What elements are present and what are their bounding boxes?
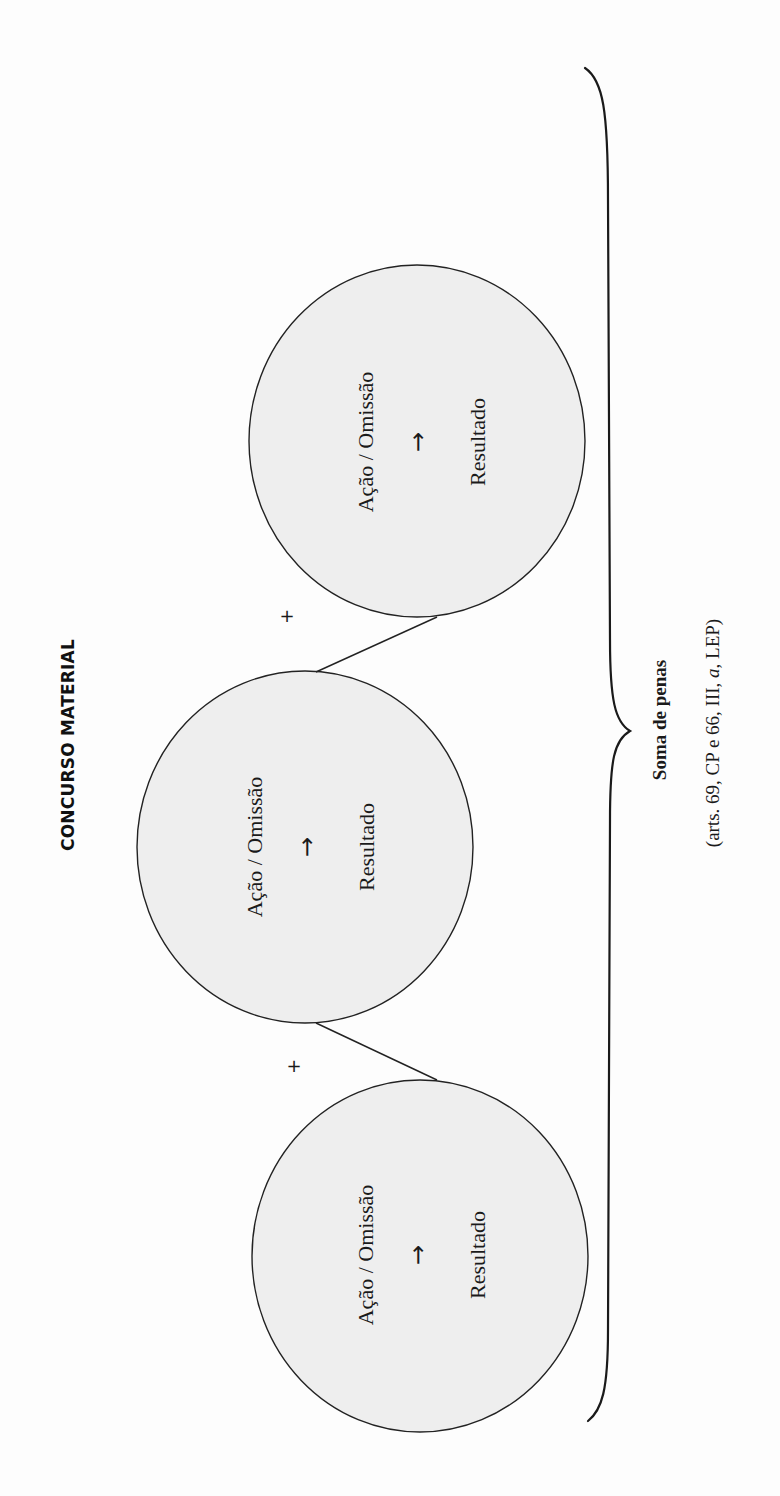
- citation-prefix: (arts. 69, CP e 66, III,: [702, 678, 723, 847]
- curly-brace: [585, 68, 630, 1421]
- citation-italic: a: [702, 668, 723, 678]
- arrow-right-icon: →: [404, 1245, 432, 1265]
- circle-top-action: Ação / Omissão: [353, 372, 379, 513]
- citation-suffix: , LEP): [702, 619, 723, 669]
- circle-middle-result: Resultado: [354, 803, 380, 891]
- diagram-title: CONCURSO MATERIAL: [58, 639, 78, 851]
- connector-line-lower: [316, 1023, 437, 1080]
- connector-line-upper: [316, 617, 437, 672]
- plus-sign-lower: +: [286, 1055, 301, 1076]
- circle-middle-action: Ação / Omissão: [242, 777, 268, 918]
- arrow-right-icon: →: [293, 837, 321, 857]
- plus-sign-upper: +: [279, 605, 294, 626]
- arrow-right-icon: →: [404, 432, 432, 452]
- circle-top-result: Resultado: [465, 398, 491, 486]
- summary-citation: (arts. 69, CP e 66, III, a, LEP): [702, 619, 724, 847]
- circle-bottom-action: Ação / Omissão: [353, 1185, 379, 1326]
- circle-bottom-result: Resultado: [465, 1211, 491, 1299]
- summary-label: Soma de penas: [649, 660, 671, 780]
